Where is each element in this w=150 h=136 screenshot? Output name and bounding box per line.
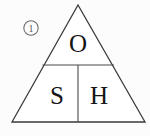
triangle-cell-bottom-left-letter: S xyxy=(50,82,64,109)
triangle-cell-top-letter: O xyxy=(69,30,87,57)
formula-triangle-figure: O S H 1 xyxy=(0,0,150,136)
triangle-diagram: O S H 1 xyxy=(0,0,150,136)
item-number-label: 1 xyxy=(29,23,34,34)
triangle-cell-bottom-right-letter: H xyxy=(90,82,108,109)
